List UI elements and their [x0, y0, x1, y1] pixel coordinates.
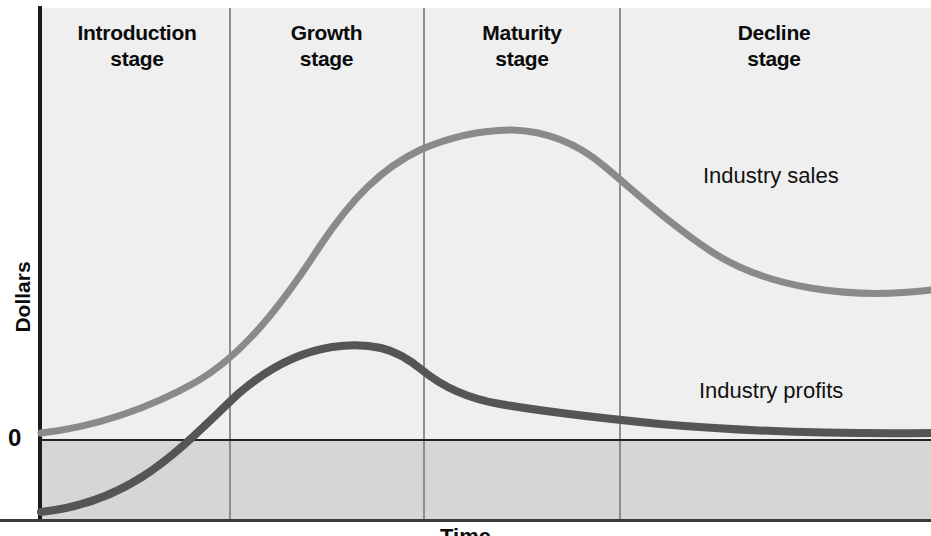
series-label-industry-profits: Industry profits: [699, 378, 843, 404]
stage-label-introduction: Introduction stage: [47, 20, 227, 72]
stage-label-decline: Decline stage: [624, 20, 924, 72]
curves-layer: [0, 0, 931, 536]
series-label-industry-sales: Industry sales: [703, 163, 839, 189]
stage-label-decline-line2: stage: [624, 46, 924, 72]
stage-label-growth-line2: stage: [234, 46, 419, 72]
stage-label-growth: Growth stage: [234, 20, 419, 72]
y-axis-title: Dollars: [11, 252, 35, 342]
stage-label-decline-line1: Decline: [624, 20, 924, 46]
stage-label-maturity-line2: stage: [428, 46, 616, 72]
y-axis-zero-tick: 0: [8, 424, 21, 452]
stage-label-introduction-line1: Introduction: [47, 20, 227, 46]
stage-label-growth-line1: Growth: [234, 20, 419, 46]
industry-profits-curve: [41, 345, 931, 512]
product-life-cycle-chart: Introduction stage Growth stage Maturity…: [0, 0, 931, 536]
x-axis-title: Time: [0, 524, 931, 536]
stage-label-maturity-line1: Maturity: [428, 20, 616, 46]
stage-label-introduction-line2: stage: [47, 46, 227, 72]
stage-label-maturity: Maturity stage: [428, 20, 616, 72]
